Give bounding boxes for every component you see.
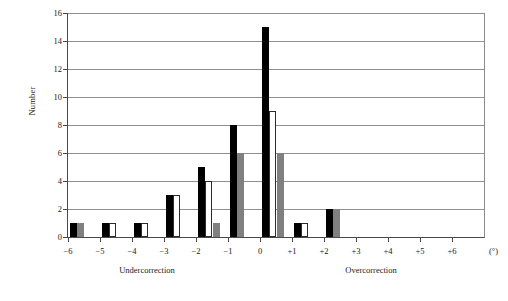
bar-black-1 xyxy=(102,223,109,237)
y-axis-tick xyxy=(63,209,68,210)
bar-gray-6 xyxy=(277,153,284,237)
y-axis-tick-label: 6 xyxy=(58,148,62,158)
bar-white-2 xyxy=(141,223,148,237)
bar-black-0 xyxy=(70,223,77,237)
y-axis-title: Number xyxy=(27,71,37,131)
plot-area: 0246810121416−6−5−4−3−2−10+1+2+3+4+5+6 xyxy=(67,13,485,238)
x-axis-unit-label: (°) xyxy=(489,246,498,256)
gridline xyxy=(68,69,484,70)
bar-black-2 xyxy=(134,223,141,237)
y-axis-tick xyxy=(63,41,68,42)
x-axis-tick-label: +5 xyxy=(415,246,424,256)
x-axis-tick xyxy=(68,237,69,242)
gridline xyxy=(68,13,484,14)
x-axis-tick-label: −3 xyxy=(159,246,168,256)
x-axis-tick-label: +4 xyxy=(383,246,392,256)
bar-black-8 xyxy=(326,209,333,237)
x-axis-tick-label: 0 xyxy=(258,246,262,256)
x-axis-tick-label: +1 xyxy=(287,246,296,256)
x-axis-tick xyxy=(388,237,389,242)
x-axis-tick xyxy=(100,237,101,242)
overcorrection-label: Overcorrection xyxy=(345,265,396,275)
x-axis-tick xyxy=(228,237,229,242)
bar-black-5 xyxy=(230,125,237,237)
bar-black-3 xyxy=(166,195,173,237)
bar-white-1 xyxy=(109,223,116,237)
y-axis-tick-label: 8 xyxy=(58,120,62,130)
bar-chart: Number 0246810121416−6−5−4−3−2−10+1+2+3+… xyxy=(0,0,508,301)
bar-gray-8 xyxy=(333,209,340,237)
x-axis-tick xyxy=(356,237,357,242)
bar-black-7 xyxy=(294,223,301,237)
y-axis-tick xyxy=(63,181,68,182)
y-axis-tick-label: 12 xyxy=(54,64,63,74)
bar-gray-5 xyxy=(237,153,244,237)
bar-gray-0 xyxy=(77,223,84,237)
x-axis-tick-label: +2 xyxy=(319,246,328,256)
y-axis-tick xyxy=(63,69,68,70)
bar-white-4 xyxy=(205,181,212,237)
bar-white-6 xyxy=(269,111,276,237)
y-axis-tick xyxy=(63,97,68,98)
bar-black-4 xyxy=(198,167,205,237)
y-axis-tick-label: 0 xyxy=(58,232,62,242)
y-axis-tick-label: 4 xyxy=(58,176,62,186)
bar-white-3 xyxy=(173,195,180,237)
y-axis-tick-label: 14 xyxy=(54,36,63,46)
x-axis-tick-label: +6 xyxy=(447,246,456,256)
x-axis-tick xyxy=(132,237,133,242)
x-axis-tick-label: −2 xyxy=(191,246,200,256)
x-axis-tick xyxy=(324,237,325,242)
x-axis-tick-label: −1 xyxy=(223,246,232,256)
y-axis-tick xyxy=(63,13,68,14)
y-axis-tick xyxy=(63,153,68,154)
y-axis-tick-label: 2 xyxy=(58,204,62,214)
undercorrection-label: Undercorrection xyxy=(119,265,175,275)
x-axis-tick xyxy=(452,237,453,242)
x-axis-tick xyxy=(292,237,293,242)
gridline xyxy=(68,41,484,42)
x-axis-tick xyxy=(420,237,421,242)
y-axis-tick-label: 10 xyxy=(54,92,63,102)
gridline xyxy=(68,97,484,98)
bar-black-6 xyxy=(262,27,269,237)
bar-gray-4 xyxy=(213,223,220,237)
bar-white-7 xyxy=(301,223,308,237)
y-axis-tick-label: 16 xyxy=(54,8,63,18)
y-axis-tick xyxy=(63,125,68,126)
x-axis-tick xyxy=(196,237,197,242)
x-axis-tick-label: −4 xyxy=(127,246,136,256)
x-axis-tick-label: +3 xyxy=(351,246,360,256)
x-axis-tick-label: −6 xyxy=(63,246,72,256)
x-axis-tick xyxy=(164,237,165,242)
x-axis-tick-label: −5 xyxy=(95,246,104,256)
x-axis-tick xyxy=(260,237,261,242)
